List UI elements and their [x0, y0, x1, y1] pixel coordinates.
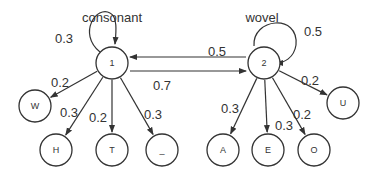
node-label: 2 — [261, 59, 266, 68]
edge-weight-label: 0.3 — [144, 108, 162, 121]
group-label-consonant: consonant — [82, 11, 142, 24]
node-label: A — [220, 146, 226, 155]
node-label: E — [265, 146, 271, 155]
edge-weight-label: 0.3 — [55, 32, 73, 45]
group-label-wovel: wovel — [245, 11, 278, 24]
edge-weight-label: 0.3 — [221, 102, 239, 115]
markov-diagram: 0.30.50.70.50.20.30.20.30.30.30.20.212WH… — [0, 0, 376, 177]
node-label: H — [53, 146, 60, 155]
edge-weight-label: 0.5 — [304, 25, 322, 38]
node-label: U — [340, 99, 347, 108]
node-label: O — [310, 146, 317, 155]
edge-weight-label: 0.3 — [275, 119, 293, 132]
node-label: _ — [159, 146, 164, 155]
node-label: W — [31, 102, 40, 111]
edge-weight-label: 0.2 — [89, 111, 107, 124]
edge-weight-label: 0.3 — [60, 106, 78, 119]
edge-weight-label: 0.7 — [153, 79, 171, 92]
edge-weight-label: 0.5 — [208, 45, 226, 58]
node-label: T — [109, 146, 115, 155]
edge-weight-label: 0.2 — [293, 108, 311, 121]
edge-weight-label: 0.2 — [51, 76, 69, 89]
node-label: 1 — [109, 59, 114, 68]
edge-weight-label: 0.2 — [301, 74, 319, 87]
edge-n2-E — [265, 80, 267, 132]
